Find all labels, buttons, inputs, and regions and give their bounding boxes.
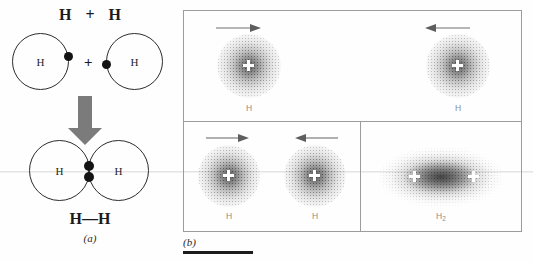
product-atom-left-label-wrap: H — [29, 140, 90, 201]
reactant-plus-operator: + — [84, 54, 93, 71]
product-atom-right-label-wrap: H — [88, 140, 149, 201]
down-block-arrow-icon — [62, 96, 108, 146]
reactant-operator: + — [85, 6, 94, 24]
molecule-label-subscript: 2 — [442, 215, 446, 222]
reaction-arrow-container — [62, 96, 108, 146]
right-arrow-icon — [216, 23, 262, 33]
reactant-atom-right-label: H — [107, 56, 162, 68]
nucleus-plus-right-top — [452, 60, 463, 71]
product-formula-label: H—H — [0, 210, 180, 228]
product-atom-right-label: H — [115, 165, 123, 177]
reactant-atom-right-electron-dot — [102, 60, 111, 69]
panel-a-lewis-diagram: H+H H + H H H H—H (a — [0, 0, 180, 262]
nucleus-plus-molecule-right — [468, 171, 479, 182]
left-arrow-icon — [424, 23, 470, 33]
right-arrow-icon — [206, 133, 250, 143]
motion-arrow-right-top — [216, 19, 262, 29]
figure-rule-bar — [183, 251, 253, 254]
reactant-atom-left-circle: H — [12, 33, 69, 90]
motion-arrow-right-bottom — [206, 129, 250, 139]
product-atom-left-label: H — [56, 165, 64, 177]
left-arrow-icon — [294, 133, 338, 143]
reactant-atom-left-electron-dot — [64, 52, 73, 61]
reactant-right-symbol: H — [109, 6, 121, 24]
panel-b-caption: (b) — [183, 236, 196, 248]
reactant-atom-left-label: H — [13, 56, 68, 68]
motion-arrow-left-top — [424, 19, 470, 29]
reactant-left-symbol: H — [59, 6, 71, 24]
nucleus-plus-left-top — [243, 60, 254, 71]
cell-bonded-molecule: H2 — [361, 122, 521, 231]
motion-arrow-left-bottom — [294, 129, 338, 139]
shared-electron-dot-upper — [84, 161, 94, 171]
cell-far-apart-atoms: H H — [184, 11, 521, 122]
figure-root: H+H H + H H H H—H (a — [0, 0, 533, 262]
cell-approaching-atoms: H H — [184, 122, 361, 231]
panel-b-electron-cloud-diagram: H H — [183, 10, 522, 232]
nucleus-plus-right-bottom — [309, 170, 320, 181]
reactant-atom-right-circle: H — [106, 33, 163, 90]
nucleus-plus-left-bottom — [223, 170, 234, 181]
electron-cloud-molecule — [379, 144, 503, 210]
shared-electron-dot-lower — [84, 172, 94, 182]
panel-a-caption: (a) — [0, 232, 180, 244]
atom-label-right-bottom: H — [295, 211, 335, 221]
atom-label-right-top: H — [438, 103, 478, 113]
atom-label-left-bottom: H — [209, 211, 249, 221]
atom-label-left-top: H — [229, 103, 269, 113]
nucleus-plus-molecule-left — [409, 171, 420, 182]
molecule-label-h2: H2 — [421, 211, 461, 221]
reactant-expression: H+H — [0, 6, 180, 24]
